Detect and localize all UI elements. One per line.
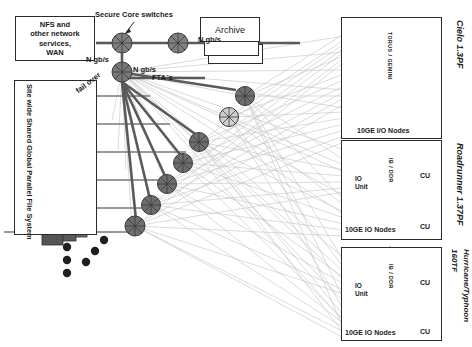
io-nodes-label-roadrunner: 10GE IO Nodes bbox=[345, 226, 396, 234]
interconnect-label-roadrunner: IB / DDR bbox=[388, 158, 394, 183]
agg-node-5 bbox=[158, 175, 177, 194]
archive-label: Archive bbox=[215, 25, 245, 35]
file-system-title: Site wide Shared Global Parallel File Sy… bbox=[17, 84, 33, 232]
cu-label-hurricane-top: CU bbox=[420, 279, 430, 287]
ngbs-left-label: N gb/s bbox=[86, 56, 109, 64]
cluster-title-hurricane: Hurricane/Typhoon bbox=[462, 249, 471, 322]
ellipsis-dots-vertical bbox=[63, 243, 71, 277]
cluster-title-cielo: Cielo 1.3PF bbox=[455, 20, 465, 69]
switch-node-1 bbox=[112, 33, 132, 53]
cluster-title-roadrunner: Roadrunner 1.37PF bbox=[455, 143, 465, 226]
agg-node-4 bbox=[174, 154, 193, 173]
interconnect-label-hurricane: IB / DDR bbox=[388, 264, 394, 289]
secure-core-switches-label: Secure Core switches bbox=[95, 11, 173, 19]
cluster-perf-hurricane: 160TF bbox=[450, 249, 459, 272]
io-label-hurricane: IO bbox=[355, 282, 362, 289]
cu-label-roadrunner-bottom: CU bbox=[420, 223, 430, 231]
agg-node-3 bbox=[190, 133, 209, 152]
nfs-line-1: NFS and bbox=[40, 20, 70, 29]
nfs-line-3: services, bbox=[39, 39, 71, 48]
io-nodes-label-cielo: 10GE I/O Nodes bbox=[357, 127, 410, 135]
agg-node-2 bbox=[220, 108, 239, 127]
ftas-label: FTA´s bbox=[152, 74, 173, 82]
agg-node-7 bbox=[125, 216, 145, 236]
cluster-title-roadrunner-text: Roadrunner 1.37PF bbox=[455, 143, 465, 226]
nfs-services-box: NFS and other network services, WAN bbox=[15, 16, 95, 61]
agg-node-6 bbox=[142, 196, 161, 215]
ellipsis-dots-diagonal bbox=[82, 236, 108, 266]
unit-label-roadrunner: Unit bbox=[355, 183, 368, 190]
io-label-roadrunner: IO bbox=[355, 175, 362, 182]
ngbs-top-label: N gb/s bbox=[198, 36, 221, 44]
cu-label-roadrunner-top: CU bbox=[420, 172, 430, 180]
io-nodes-label-hurricane: 10GE IO Nodes bbox=[345, 329, 396, 337]
cu-label-hurricane-bottom: CU bbox=[420, 328, 430, 336]
interconnect-label-cielo: TORUS / GEMINI bbox=[387, 32, 393, 80]
agg-node-1 bbox=[236, 87, 255, 106]
cluster-title-hurricane-name: Hurricane/Typhoon bbox=[462, 249, 471, 322]
nfs-line-2: other network bbox=[30, 29, 80, 38]
cluster-perf-hurricane-text: 160TF bbox=[450, 249, 459, 272]
unit-label-hurricane: Unit bbox=[355, 290, 368, 297]
interconnect-roadrunner-text: IB / DDR bbox=[388, 158, 394, 183]
switch-node-2 bbox=[168, 33, 188, 53]
interconnect-cielo-text: TORUS / GEMINI bbox=[387, 32, 393, 80]
core-switch-nodes bbox=[112, 33, 188, 82]
secure-core-arrow bbox=[125, 22, 134, 34]
cluster-title-cielo-text: Cielo 1.3PF bbox=[455, 20, 465, 69]
interconnect-hurricane-text: IB / DDR bbox=[388, 264, 394, 289]
nfs-line-4: WAN bbox=[46, 48, 64, 57]
switch-node-3 bbox=[112, 62, 132, 82]
